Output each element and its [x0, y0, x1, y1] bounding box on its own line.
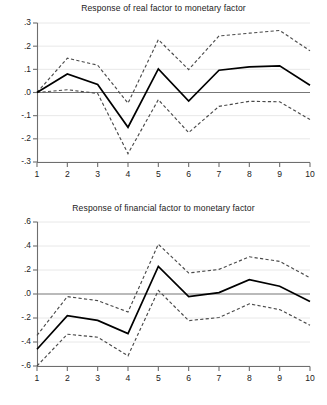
x-axis-tick-label: 7: [207, 374, 231, 383]
x-axis-tick-label: 10: [298, 374, 322, 383]
chart-panel-financial-factor: Response of financial factor to monetary…: [0, 196, 327, 405]
x-axis-tick-label: 5: [146, 170, 170, 179]
x-axis-tick-label: 3: [86, 374, 110, 383]
x-axis-tick-label: 5: [146, 374, 170, 383]
x-axis-tick-label: 3: [86, 170, 110, 179]
y-axis-tick-label: .2: [1, 42, 31, 50]
x-axis-tick-label: 8: [237, 374, 261, 383]
x-axis-tick-label: 9: [268, 170, 292, 179]
y-axis-tick-label: -.4: [1, 337, 31, 345]
y-axis-tick-label: .3: [1, 18, 31, 26]
y-axis-tick-label: -.2: [1, 313, 31, 321]
x-axis-tick-label: 9: [268, 374, 292, 383]
y-axis-tick-label: -.6: [1, 361, 31, 369]
chart-title-financial-factor: Response of financial factor to monetary…: [0, 203, 327, 213]
y-axis-tick-label: .1: [1, 65, 31, 73]
y-axis-tick-label: .0: [1, 289, 31, 297]
x-axis-tick-label: 7: [207, 170, 231, 179]
impulse-response-figure: Response of real factor to monetary fact…: [0, 0, 327, 405]
x-axis-tick-label: 1: [25, 170, 49, 179]
chart-title-real-factor: Response of real factor to monetary fact…: [0, 3, 327, 13]
x-axis-tick-label: 6: [177, 374, 201, 383]
x-axis-tick-label: 4: [116, 170, 140, 179]
x-axis-tick-label: 8: [237, 170, 261, 179]
y-axis-tick-label: .4: [1, 241, 31, 249]
chart-panel-real-factor: Response of real factor to monetary fact…: [0, 0, 327, 196]
plot-area-real-factor: [37, 23, 310, 162]
x-axis-tick-label: 2: [55, 374, 79, 383]
x-axis-tick-label: 6: [177, 170, 201, 179]
x-axis-tick-label: 10: [298, 170, 322, 179]
y-axis-tick-label: -.1: [1, 111, 31, 119]
y-axis-tick-label: .0: [1, 88, 31, 96]
y-axis-tick-label: -.2: [1, 134, 31, 142]
y-axis-tick-label: .2: [1, 265, 31, 273]
x-axis-tick-label: 1: [25, 374, 49, 383]
x-axis-tick-label: 2: [55, 170, 79, 179]
y-axis-tick-label: -.3: [1, 157, 31, 165]
y-axis-tick-label: .6: [1, 217, 31, 225]
plot-area-financial-factor: [37, 222, 310, 366]
x-axis-tick-label: 4: [116, 374, 140, 383]
